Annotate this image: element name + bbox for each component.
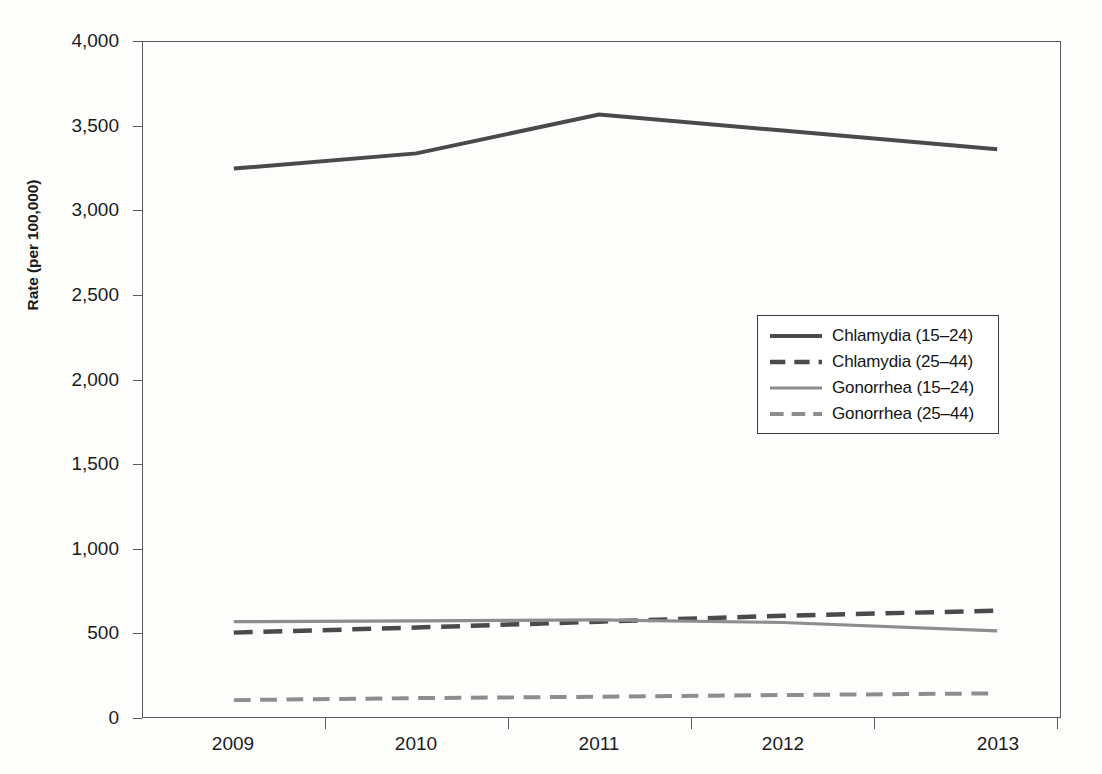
y-tick-label: 2,500 <box>24 284 119 306</box>
y-tick-mark <box>133 464 142 465</box>
x-tick-mark <box>325 718 326 729</box>
legend-swatch-icon <box>769 381 823 395</box>
x-tick-label: 2010 <box>346 733 486 755</box>
y-tick-label: 3,500 <box>24 115 119 137</box>
legend-label: Gonorrhea (15–24) <box>832 378 974 398</box>
legend-label: Chlamydia (15–24) <box>832 326 973 346</box>
legend-swatch-icon <box>769 355 823 369</box>
x-tick-label: 2012 <box>713 733 853 755</box>
series-line <box>234 115 997 169</box>
legend-swatch-icon <box>769 329 823 343</box>
y-tick-label: 2,000 <box>24 369 119 391</box>
y-tick-label: 1,000 <box>24 538 119 560</box>
chart-legend: Chlamydia (15–24)Chlamydia (25–44)Gonorr… <box>757 315 999 434</box>
legend-item[interactable]: Gonorrhea (25–44) <box>758 401 998 427</box>
legend-label: Gonorrhea (25–44) <box>832 404 974 424</box>
y-tick-mark <box>133 41 142 42</box>
legend-swatch-icon <box>769 407 823 421</box>
y-axis-tick-marks <box>133 41 142 718</box>
x-tick-label: 2011 <box>529 733 669 755</box>
y-tick-mark <box>133 718 142 719</box>
y-tick-mark <box>133 549 142 550</box>
legend-label: Chlamydia (25–44) <box>832 352 973 372</box>
x-axis-tick-marks <box>142 718 1061 729</box>
x-tick-mark <box>1057 718 1058 729</box>
y-tick-mark <box>133 380 142 381</box>
y-tick-mark <box>133 210 142 211</box>
y-tick-label: 500 <box>24 622 119 644</box>
y-tick-mark <box>133 126 142 127</box>
x-tick-label: 2013 <box>928 733 1068 755</box>
x-tick-mark <box>691 718 692 729</box>
series-line <box>234 620 997 631</box>
x-tick-mark <box>874 718 875 729</box>
chart-container: Rate (per 100,000) 05001,0001,5002,0002,… <box>0 0 1102 774</box>
legend-item[interactable]: Chlamydia (25–44) <box>758 349 998 375</box>
y-tick-label: 1,500 <box>24 453 119 475</box>
y-tick-label: 0 <box>24 707 119 729</box>
legend-item[interactable]: Chlamydia (15–24) <box>758 323 998 349</box>
x-axis-tick-labels: 20092010201120122013 <box>142 733 1061 763</box>
x-tick-label: 2009 <box>163 733 303 755</box>
series-line <box>234 693 997 700</box>
y-tick-label: 4,000 <box>24 30 119 52</box>
x-tick-mark <box>508 718 509 729</box>
y-tick-mark <box>133 633 142 634</box>
y-axis-tick-labels: 05001,0001,5002,0002,5003,0003,5004,000 <box>24 41 119 718</box>
y-tick-label: 3,000 <box>24 199 119 221</box>
legend-item[interactable]: Gonorrhea (15–24) <box>758 375 998 401</box>
y-tick-mark <box>133 295 142 296</box>
